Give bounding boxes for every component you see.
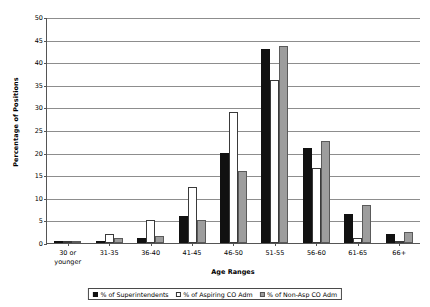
bar xyxy=(146,220,155,243)
y-axis-tick-mark xyxy=(44,244,47,245)
bar xyxy=(303,148,312,243)
bar-group: 31-35 xyxy=(88,18,129,243)
bar xyxy=(155,236,164,243)
bar xyxy=(137,238,146,243)
bar xyxy=(220,153,229,243)
bar-groups: 30 or younger31-3536-4041-4546-5051-5556… xyxy=(47,18,420,243)
y-axis-tick-label: 45 xyxy=(13,37,43,45)
x-axis-title: Age Ranges xyxy=(46,268,420,276)
chart-legend: % of Superintendents% of Aspiring CO Adm… xyxy=(88,288,342,300)
bar xyxy=(404,232,413,243)
bar-group: 46-50 xyxy=(213,18,254,243)
y-axis-title: Percentage of Positions xyxy=(12,62,20,182)
bar xyxy=(54,241,63,243)
y-axis-tick-label: 10 xyxy=(13,195,43,203)
bar-group: 30 or younger xyxy=(47,18,88,243)
bar xyxy=(270,80,279,243)
legend-swatch-icon xyxy=(176,292,181,297)
y-axis-tick-label: 25 xyxy=(13,127,43,135)
bar xyxy=(72,241,81,243)
bar xyxy=(386,234,395,243)
legend-label: % of Aspiring CO Adm xyxy=(183,291,252,298)
bar xyxy=(321,141,330,243)
bar-group: 61-65 xyxy=(337,18,378,243)
bar xyxy=(238,171,247,243)
y-axis-tick-label: 30 xyxy=(13,104,43,112)
legend-label: % of Non-Asp CO Adm xyxy=(267,291,337,298)
bar xyxy=(188,187,197,244)
bar xyxy=(105,234,114,243)
y-axis-tick-label: 5 xyxy=(13,217,43,225)
legend-item: % of Aspiring CO Adm xyxy=(176,291,253,298)
bar xyxy=(114,238,123,243)
plot-area: 05101520253035404550 30 or younger31-353… xyxy=(46,18,420,244)
bar xyxy=(197,220,206,243)
bar xyxy=(96,241,105,243)
bar-group: 41-45 xyxy=(171,18,212,243)
x-axis-tick-mark xyxy=(233,243,234,246)
bar xyxy=(261,49,270,243)
y-axis-tick-label: 50 xyxy=(13,14,43,22)
bar xyxy=(344,214,353,243)
legend-label: % of Superintendents xyxy=(100,291,168,298)
x-axis-tick-mark xyxy=(399,243,400,246)
x-axis-tick-mark xyxy=(358,243,359,246)
bar-group: 36-40 xyxy=(130,18,171,243)
bar-group: 56-60 xyxy=(296,18,337,243)
legend-item: % of Superintendents xyxy=(93,291,169,298)
bar-group: 51-55 xyxy=(254,18,295,243)
x-axis-tick-mark xyxy=(316,243,317,246)
y-axis-tick-label: 20 xyxy=(13,150,43,158)
legend-item: % of Non-Asp CO Adm xyxy=(260,291,338,298)
legend-swatch-icon xyxy=(93,292,98,297)
bar xyxy=(279,46,288,243)
y-axis-tick-label: 15 xyxy=(13,172,43,180)
bar xyxy=(179,216,188,243)
bar xyxy=(229,112,238,243)
x-axis-tick-mark xyxy=(68,243,69,246)
bar xyxy=(362,205,371,243)
x-axis-tick-mark xyxy=(109,243,110,246)
y-axis-tick-label: 35 xyxy=(13,82,43,90)
y-axis-tick-label: 40 xyxy=(13,59,43,67)
legend-swatch-icon xyxy=(260,292,265,297)
y-axis-tick-label: 0 xyxy=(13,240,43,248)
x-axis-tick-mark xyxy=(151,243,152,246)
x-axis-tick-mark xyxy=(275,243,276,246)
bar-group: 66+ xyxy=(379,18,420,243)
x-axis-tick-mark xyxy=(192,243,193,246)
bar xyxy=(312,168,321,243)
bar-chart: Percentage of Positions 0510152025303540… xyxy=(0,0,430,307)
x-axis-tick-label: 66+ xyxy=(361,249,430,258)
